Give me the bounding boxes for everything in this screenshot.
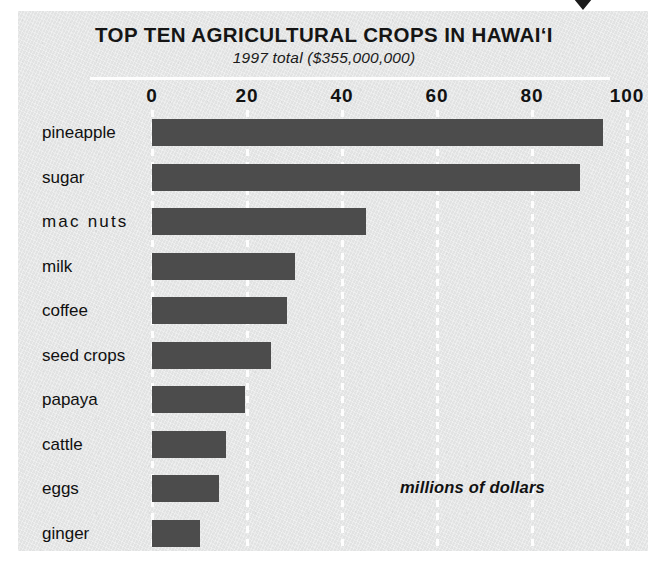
bar-row: mac nuts (0, 199, 648, 244)
page-subtitle: 1997 total ($355,000,000) (0, 49, 648, 67)
chevron-down-icon (560, 0, 606, 14)
bar-row: milk (0, 244, 648, 289)
bar-row: eggs (0, 466, 648, 511)
x-axis-tick-100: 100 (610, 85, 645, 107)
bar-label-eggs: eggs (42, 466, 79, 511)
bar-sugar (152, 164, 580, 191)
bar-ginger (152, 520, 200, 547)
bar-label-ginger: ginger (42, 511, 89, 556)
bar-coffee (152, 297, 287, 324)
bar-label-papaya: papaya (42, 377, 98, 422)
x-axis-tick-0: 0 (146, 85, 158, 107)
title-divider (90, 77, 610, 80)
chart-page: TOP TEN AGRICULTURAL CROPS IN HAWAI‘I 19… (0, 0, 648, 561)
bar-row: ginger (0, 511, 648, 556)
bar-seed-crops (152, 342, 271, 369)
x-axis-tick-20: 20 (235, 85, 258, 107)
bar-label-milk: milk (42, 244, 72, 289)
bar-label-sugar: sugar (42, 155, 85, 200)
bar-label-cattle: cattle (42, 422, 83, 467)
plot-area: pineapplesugarmac nutsmilkcoffeeseed cro… (0, 110, 648, 550)
bar-row: coffee (0, 288, 648, 333)
bar-milk (152, 253, 295, 280)
bar-row: sugar (0, 155, 648, 200)
bar-eggs (152, 475, 219, 502)
bar-pineapple (152, 119, 603, 146)
bar-row: cattle (0, 422, 648, 467)
bar-label-coffee: coffee (42, 288, 88, 333)
x-axis-tick-80: 80 (520, 85, 543, 107)
bar-cattle (152, 431, 226, 458)
units-note: millions of dollars (400, 478, 545, 497)
bar-row: papaya (0, 377, 648, 422)
bar-label-seed-crops: seed crops (42, 333, 125, 378)
bar-label-pineapple: pineapple (42, 110, 116, 155)
page-title: TOP TEN AGRICULTURAL CROPS IN HAWAI‘I (0, 23, 648, 47)
bar-label-mac-nuts: mac nuts (42, 199, 129, 244)
x-axis-tick-60: 60 (425, 85, 448, 107)
bar-row: pineapple (0, 110, 648, 155)
bar-mac-nuts (152, 208, 366, 235)
bar-row: seed crops (0, 333, 648, 378)
x-axis-tick-40: 40 (330, 85, 353, 107)
bar-papaya (152, 386, 245, 413)
